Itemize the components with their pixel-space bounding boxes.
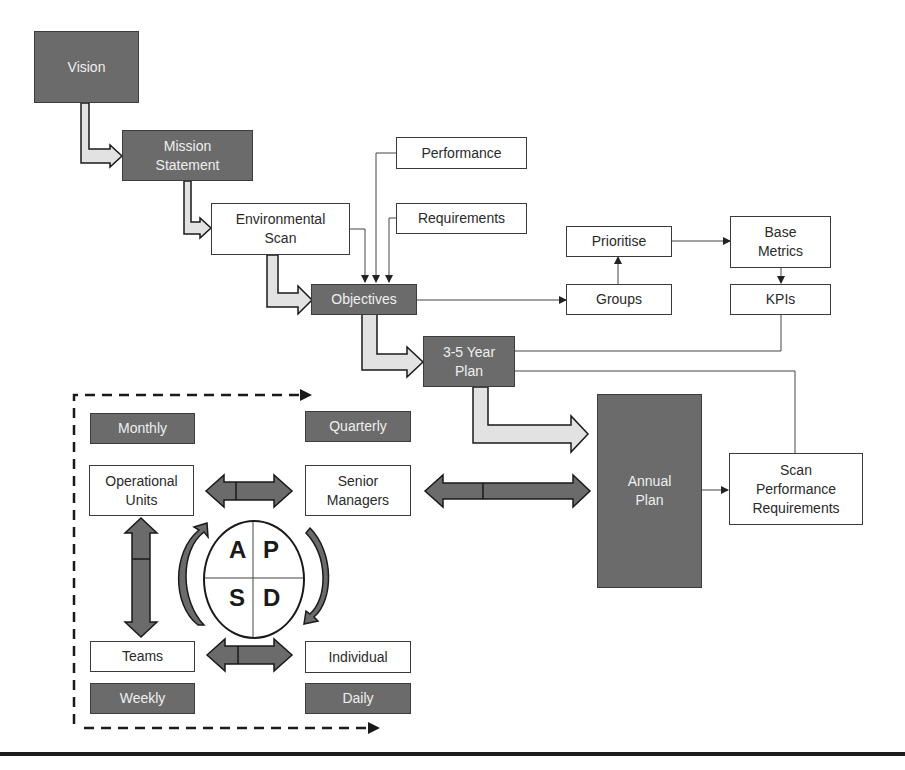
pdca-study: S — [229, 584, 245, 612]
node-environmental-scan: Environmental Scan — [211, 203, 350, 255]
node-mission-statement: Mission Statement — [122, 130, 253, 181]
node-vision: Vision — [34, 31, 139, 103]
label-weekly: Weekly — [90, 683, 195, 714]
dashed-arrowhead-top — [300, 389, 312, 401]
node-objectives: Objectives — [311, 284, 417, 315]
pdca-act: A — [229, 536, 246, 564]
node-groups: Groups — [566, 284, 672, 315]
pdca-quadrant-lines — [205, 522, 303, 637]
label-quarterly: Quarterly — [305, 411, 411, 442]
pdca-do: D — [263, 584, 280, 612]
node-3-5-year-plan: 3-5 Year Plan — [423, 336, 515, 387]
bottom-rule — [0, 752, 905, 756]
node-senior-managers: Senior Managers — [305, 465, 411, 516]
label-daily: Daily — [305, 683, 411, 714]
node-individual: Individual — [305, 641, 411, 673]
node-requirements: Requirements — [396, 203, 527, 234]
node-scan-performance-requirements: Scan Performance Requirements — [729, 453, 863, 525]
node-kpis: KPIs — [730, 284, 831, 315]
node-annual-plan: Annual Plan — [597, 394, 702, 588]
pdca-plan: P — [263, 536, 279, 564]
node-operational-units: Operational Units — [89, 465, 194, 516]
node-base-metrics: Base Metrics — [730, 216, 831, 268]
label-monthly: Monthly — [90, 413, 195, 444]
node-performance: Performance — [396, 137, 527, 169]
node-prioritise: Prioritise — [566, 226, 672, 257]
dashed-arrowhead-bottom — [368, 722, 380, 734]
node-teams: Teams — [90, 641, 195, 672]
pdca-circle: A P S D — [203, 520, 305, 639]
